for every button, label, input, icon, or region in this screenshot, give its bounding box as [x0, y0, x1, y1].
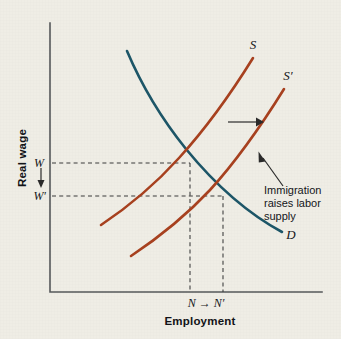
axes-group	[50, 23, 322, 292]
diagram-canvas: S S′ D W W′ N → N′ Employment Real wage …	[0, 0, 341, 339]
supply-curve-label: S	[250, 37, 257, 52]
supply-demand-diagram: S S′ D W W′ N → N′ Employment Real wage …	[0, 0, 341, 339]
wage-label-w-prime: W′	[33, 189, 46, 203]
annotation-text-block: Immigration raises labor supply	[264, 184, 321, 222]
employment-change-label: N → N′	[187, 296, 225, 310]
supply-shift-arrow	[228, 118, 264, 127]
wage-label-w: W	[34, 156, 45, 170]
wage-decrease-arrow	[38, 168, 45, 188]
x-axis-title: Employment	[164, 315, 235, 327]
guide-lines-group	[52, 163, 223, 292]
annotation-line-2: raises labor	[264, 197, 321, 209]
demand-curve	[127, 51, 282, 232]
supply-curve-original	[101, 58, 253, 225]
annotation-callout-arrow	[259, 152, 284, 187]
annotation-line-1: Immigration	[264, 184, 321, 196]
demand-curve-label: D	[285, 227, 296, 242]
annotation-line-3: supply	[264, 210, 296, 222]
supply-shifted-curve-label: S′	[283, 68, 293, 83]
y-axis-title: Real wage	[16, 129, 28, 187]
axis-lines	[50, 23, 322, 292]
